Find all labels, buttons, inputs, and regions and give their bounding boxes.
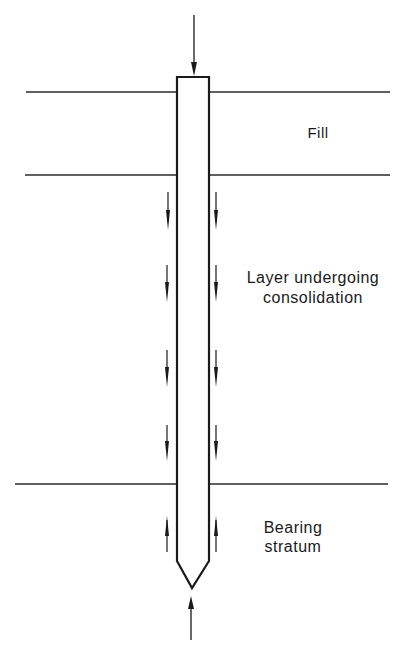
down-arrow-icon xyxy=(165,425,169,461)
down-arrow-icon xyxy=(214,265,218,302)
end-bearing-arrow-icon xyxy=(188,596,194,640)
down-arrow-icon xyxy=(165,350,169,387)
down-arrow-icon xyxy=(214,192,218,230)
up-arrow-icon xyxy=(214,516,218,552)
fill-label: Fill xyxy=(288,124,348,142)
bearing-label-line1: Bearing xyxy=(248,518,338,537)
bearing-label-line2: stratum xyxy=(248,537,338,556)
down-arrow-icon xyxy=(166,192,170,230)
down-arrow-icon xyxy=(165,265,169,302)
consolidation-label-line2: consolidation xyxy=(228,288,398,308)
consolidation-label-line1: Layer undergoing xyxy=(228,268,398,288)
applied-load-arrow-icon xyxy=(191,15,197,76)
down-arrow-icon xyxy=(214,350,218,387)
pile xyxy=(177,77,209,588)
pile-diagram xyxy=(0,0,412,651)
bearing-stratum-label: Bearing stratum xyxy=(248,518,338,556)
down-arrow-icon xyxy=(214,425,218,461)
up-arrow-icon xyxy=(165,516,169,552)
consolidation-label: Layer undergoing consolidation xyxy=(228,268,398,308)
